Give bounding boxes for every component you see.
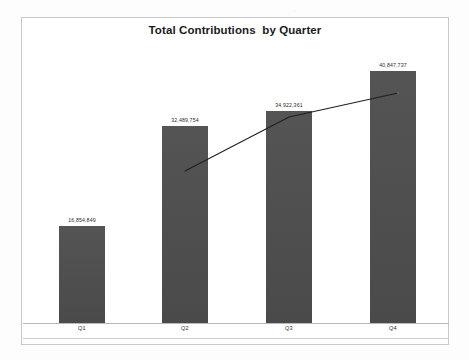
plot-area: 16,854,849 32,489,754 34,922,361 40,847,… (22, 18, 450, 346)
chart-screenshot: Total Contributions by Quarter 16,854,84… (0, 0, 469, 360)
category-label-q1: Q1 (42, 325, 122, 331)
bar-value-label-q1: 16,854,849 (42, 217, 122, 223)
bar-q1[interactable] (59, 226, 105, 323)
chart-frame: Total Contributions by Quarter 16,854,84… (21, 17, 449, 345)
bar-q2[interactable] (162, 126, 208, 323)
category-label-q4: Q4 (353, 325, 433, 331)
bar-value-label-q3: 34,922,361 (249, 102, 329, 108)
bar-value-label-q2: 32,489,754 (145, 117, 225, 123)
bar-q4[interactable] (370, 71, 416, 323)
bar-q3[interactable] (266, 111, 312, 323)
category-label-q3: Q3 (249, 325, 329, 331)
category-label-q2: Q2 (145, 325, 225, 331)
bar-value-label-q4: 40,847,737 (353, 62, 433, 68)
